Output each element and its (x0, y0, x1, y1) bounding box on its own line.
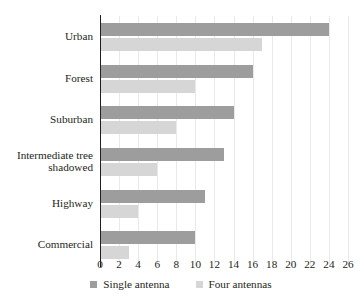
x-tick-label: 0 (97, 258, 103, 270)
legend-item-single-antenna[interactable]: Single antenna (90, 278, 169, 290)
legend-swatch-icon (90, 281, 97, 288)
y-axis-line (100, 15, 101, 267)
legend-label: Four antennas (209, 278, 272, 290)
x-tick-label: 2 (116, 258, 122, 270)
gridline (291, 16, 292, 266)
x-tick-label: 8 (174, 258, 180, 270)
gridline (119, 16, 120, 266)
gridline (176, 16, 177, 266)
gridline (138, 16, 139, 266)
gridline (310, 16, 311, 266)
x-tick-label: 12 (209, 258, 220, 270)
category-label: Intermediate tree shadowed (0, 150, 93, 173)
bar-single-antenna (100, 148, 224, 161)
x-tick-label: 6 (154, 258, 160, 270)
bar-single-antenna (100, 65, 253, 78)
gridline (329, 16, 330, 266)
legend-item-four-antennas[interactable]: Four antennas (196, 278, 272, 290)
x-tick-label: 20 (285, 258, 296, 270)
category-label: Urban (0, 31, 93, 43)
category-label: Highway (0, 198, 93, 210)
x-tick-label: 22 (304, 258, 315, 270)
bar-four-antennas (100, 121, 176, 134)
category-label: Commercial (0, 239, 93, 251)
x-tick-label: 14 (228, 258, 239, 270)
gridline (234, 16, 235, 266)
x-tick-label: 10 (190, 258, 201, 270)
x-axis-tick-labels: 02468101214161820222426 (0, 258, 362, 274)
gridline (348, 16, 349, 266)
bar-four-antennas (100, 80, 195, 93)
legend-swatch-icon (196, 281, 203, 288)
gridline (195, 16, 196, 266)
chart-legend: Single antenna Four antennas (0, 278, 362, 290)
x-tick-label: 24 (323, 258, 334, 270)
category-label: Suburban (0, 114, 93, 126)
gridline (157, 16, 158, 266)
legend-label: Single antenna (103, 278, 169, 290)
gridlines (100, 16, 348, 266)
bar-four-antennas (100, 38, 262, 51)
bar-four-antennas (100, 205, 138, 218)
gridline (272, 16, 273, 266)
gridline (253, 16, 254, 266)
bar-single-antenna (100, 190, 205, 203)
bar-single-antenna (100, 231, 195, 244)
gridline (214, 16, 215, 266)
bar-single-antenna (100, 23, 329, 36)
bar-four-antennas (100, 163, 157, 176)
x-tick-label: 18 (266, 258, 277, 270)
category-axis-labels: UrbanForestSuburbanIntermediate tree sha… (0, 16, 97, 266)
category-label: Forest (0, 73, 93, 85)
bar-single-antenna (100, 106, 234, 119)
x-tick-label: 4 (135, 258, 141, 270)
x-tick-label: 16 (247, 258, 258, 270)
x-tick-label: 26 (342, 258, 353, 270)
bar-chart: UrbanForestSuburbanIntermediate tree sha… (0, 0, 362, 306)
plot-area (100, 16, 348, 266)
